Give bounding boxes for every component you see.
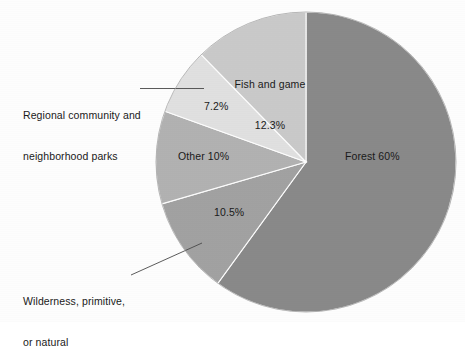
slice-label-forest: Forest 60%	[345, 150, 400, 164]
callout-wilderness-line1: Wilderness, primitive,	[23, 295, 125, 309]
slice-label-fish-and-game: Fish and game 12.3%	[222, 51, 318, 159]
slice-label-wilderness-value: 10.5%	[214, 206, 244, 220]
slice-label-fish-and-game-name: Fish and game	[222, 78, 318, 92]
callout-wilderness: Wilderness, primitive, or natural	[23, 268, 125, 350]
slice-label-fish-and-game-value: 12.3%	[222, 119, 318, 133]
slice-label-other: Other 10%	[178, 150, 229, 164]
callout-wilderness-line2: or natural	[23, 336, 125, 350]
callout-regional-parks: Regional community and neighborhood park…	[23, 82, 141, 190]
callout-regional-parks-line1: Regional community and	[23, 109, 141, 123]
callout-regional-parks-line2: neighborhood parks	[23, 150, 141, 164]
slice-label-regional-parks-value: 7.2%	[204, 100, 228, 114]
